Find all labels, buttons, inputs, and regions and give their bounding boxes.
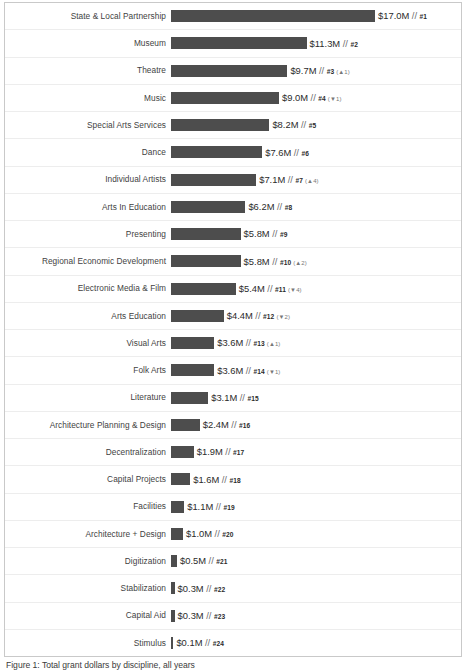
rank-badge: #13 [253, 341, 264, 348]
rank-badge: #22 [214, 587, 225, 594]
value-bar [171, 392, 208, 404]
rank-badge: #23 [214, 614, 225, 621]
value-text: $17.0M [378, 11, 409, 20]
value-bar [171, 528, 183, 540]
value-text: $6.2M [248, 202, 274, 211]
bar-row: Decentralization$1.9M//#17 [5, 439, 461, 466]
value-block: $1.1M//#19 [187, 502, 235, 512]
rank-badge: #16 [239, 423, 250, 430]
value-bar [171, 364, 214, 376]
bar-zone: $6.2M//#8 [171, 201, 459, 213]
bar-row: Literature$3.1M//#15 [5, 385, 461, 412]
value-block: $7.6M//#6 [265, 148, 309, 158]
value-rank-separator: // [222, 475, 227, 484]
value-rank-separator: // [272, 257, 277, 266]
value-text: $0.3M [178, 611, 204, 620]
value-text: $3.1M [211, 393, 237, 402]
category-label: Museum [5, 39, 166, 47]
rank-delta-indicator: (▲4) [305, 178, 319, 184]
bar-row: Facilities$1.1M//#19 [5, 494, 461, 521]
category-label: Regional Economic Development [5, 257, 166, 265]
bar-row: Presenting$5.8M//#9 [5, 221, 461, 248]
rank-delta-indicator: (▼1) [328, 96, 342, 102]
value-bar [171, 582, 175, 594]
rank-badge: #24 [213, 641, 224, 648]
rank-badge: #6 [301, 151, 309, 158]
value-text: $3.6M [217, 338, 243, 347]
bar-row: Museum$11.3M//#2 [5, 30, 461, 57]
value-rank-separator: // [277, 202, 282, 211]
category-label: Decentralization [5, 448, 166, 456]
value-block: $1.0M//#20 [186, 529, 234, 539]
category-label: Electronic Media & Film [5, 284, 166, 292]
value-text: $2.4M [203, 420, 229, 429]
value-bar [171, 283, 236, 295]
value-rank-separator: // [412, 11, 417, 20]
value-block: $3.6M//#14(▼1) [217, 366, 280, 376]
bar-row: Arts In Education$6.2M//#8 [5, 194, 461, 221]
category-label: Presenting [5, 230, 166, 238]
value-bar [171, 119, 269, 131]
value-block: $8.2M//#5 [272, 120, 316, 130]
value-rank-separator: // [206, 611, 211, 620]
rank-badge: #4 [318, 96, 326, 103]
bar-zone: $0.1M//#24 [171, 637, 459, 649]
bar-row: Architecture + Design$1.0M//#20 [5, 521, 461, 548]
value-text: $0.5M [180, 556, 206, 565]
rank-delta-indicator: (▲2) [293, 260, 307, 266]
bar-row: Theatre$9.7M//#3(▲1) [5, 58, 461, 85]
category-label: Stimulus [5, 639, 166, 647]
bar-zone: $9.7M//#3(▲1) [171, 65, 459, 77]
value-text: $7.1M [259, 175, 285, 184]
bar-row: State & Local Partnership$17.0M//#1 [5, 3, 461, 30]
rank-badge: #10 [280, 260, 291, 267]
bar-zone: $3.6M//#13(▲1) [171, 337, 459, 349]
bar-zone: $1.9M//#17 [171, 446, 459, 458]
value-bar [171, 92, 279, 104]
value-bar [171, 555, 177, 567]
bar-row: Capital Projects$1.6M//#18 [5, 466, 461, 493]
value-block: $1.6M//#18 [193, 475, 241, 485]
category-label: Literature [5, 393, 166, 401]
value-block: $5.8M//#10(▲2) [244, 257, 307, 267]
value-bar [171, 310, 224, 322]
category-label: Theatre [5, 66, 166, 74]
bar-zone: $5.4M//#11(▼4) [171, 283, 459, 295]
value-block: $1.9M//#17 [197, 447, 245, 457]
category-label: Capital Projects [5, 475, 166, 483]
bar-zone: $4.4M//#12(▼2) [171, 310, 459, 322]
value-bar [171, 37, 307, 49]
category-label: Visual Arts [5, 339, 166, 347]
rank-delta-indicator: (▼2) [276, 314, 290, 320]
value-bar [171, 610, 175, 622]
value-block: $9.0M//#4(▼1) [282, 93, 342, 103]
value-bar [171, 337, 214, 349]
category-label: Architecture + Design [5, 530, 166, 538]
chart-frame: State & Local Partnership$17.0M//#1Museu… [4, 2, 462, 657]
value-rank-separator: // [301, 120, 306, 129]
rank-badge: #8 [285, 205, 293, 212]
rank-badge: #1 [420, 14, 428, 21]
value-bar [171, 174, 256, 186]
value-bar [171, 255, 241, 267]
bar-zone: $1.6M//#18 [171, 473, 459, 485]
value-text: $9.0M [282, 93, 308, 102]
bar-zone: $2.4M//#16 [171, 419, 459, 431]
value-rank-separator: // [231, 420, 236, 429]
value-bar [171, 501, 184, 513]
bar-zone: $1.0M//#20 [171, 528, 459, 540]
rank-badge: #20 [222, 532, 233, 539]
rank-delta-indicator: (▲1) [267, 341, 281, 347]
rank-badge: #9 [280, 232, 288, 239]
category-label: Individual Artists [5, 175, 166, 183]
value-text: $1.1M [187, 502, 213, 511]
bar-row: Electronic Media & Film$5.4M//#11(▼4) [5, 276, 461, 303]
value-block: $0.1M//#24 [176, 638, 224, 648]
value-bar [171, 419, 200, 431]
value-bar [171, 446, 194, 458]
rank-delta-indicator: (▲1) [336, 69, 350, 75]
value-rank-separator: // [209, 556, 214, 565]
bar-zone: $3.6M//#14(▼1) [171, 364, 459, 376]
bar-row: Visual Arts$3.6M//#13(▲1) [5, 330, 461, 357]
value-block: $0.3M//#22 [178, 584, 226, 594]
